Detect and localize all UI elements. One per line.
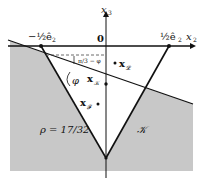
xk-label: x	[87, 73, 94, 84]
diagram: x 3 x 2 0 −½ê 2 ½ê 2 π/3 − φ φ x 𝓛 x 𝒦 x…	[0, 0, 204, 178]
diagram-canvas: x 3 x 2 0 −½ê 2 ½ê 2 π/3 − φ φ x 𝓛 x 𝒦 x…	[0, 0, 204, 178]
origin-label: 0	[97, 33, 104, 44]
xk-sub: 𝒦	[94, 79, 101, 86]
vertex-right	[167, 44, 171, 48]
angle-phi-label: φ	[72, 75, 79, 86]
vertex-left-sub: 2	[52, 36, 56, 43]
vertex-bottom	[104, 156, 107, 159]
x2-label: x	[186, 31, 192, 42]
angle-top-label: π/3 − φ	[78, 57, 101, 65]
vertex-right-sub: 2	[178, 36, 182, 43]
vertex-left	[39, 44, 43, 48]
xl-label: x	[119, 58, 126, 69]
point-xf	[97, 103, 100, 106]
x3-sub: 3	[108, 9, 112, 16]
x2-arrow-icon	[190, 43, 196, 49]
point-xl	[114, 62, 117, 65]
vertex-right-label: ½ê	[160, 31, 176, 42]
rho-label: ρ = 17/32	[39, 124, 89, 135]
x3-label: x	[101, 4, 107, 15]
xf-label: x	[80, 97, 87, 108]
point-xk	[104, 82, 107, 85]
x2-sub: 2	[193, 36, 197, 43]
vertex-left-label: −½ê	[28, 31, 52, 42]
